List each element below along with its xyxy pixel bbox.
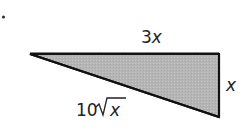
label-hypotenuse: 10 <box>76 100 98 120</box>
label-hypotenuse-var: x <box>109 100 121 120</box>
label-top-side: 3x <box>141 27 163 47</box>
triangle-diagram: 3x x 10 x <box>0 0 246 138</box>
bullet-dot <box>2 15 5 18</box>
diagram-svg: 3x x 10 x <box>0 0 246 138</box>
label-right-side: x <box>225 75 237 95</box>
